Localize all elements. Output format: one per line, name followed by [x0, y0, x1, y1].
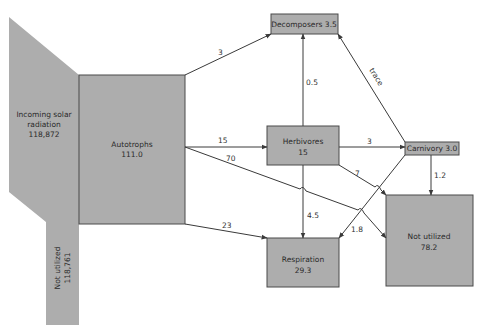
not-utilized-value: 78.2	[421, 243, 438, 252]
solar-not-utilized-label: Not utilized	[53, 246, 62, 289]
solar-label-line2: radiation	[27, 120, 61, 129]
flow-label-autotrophs-not-utilized: 70	[226, 154, 236, 163]
energy-flow-diagram: Incoming solar radiation 118,872 Not uti…	[0, 0, 482, 331]
not-utilized-label: Not utilized	[408, 232, 451, 241]
flow-label-autotrophs-herbivores: 15	[218, 136, 228, 145]
solar-label-line1: Incoming solar	[16, 110, 72, 119]
decomposers-label: Decomposers 3.5	[271, 20, 337, 29]
solar-not-utilized-value: 118,761	[63, 252, 72, 283]
carnivory-label: Carnivory 3.0	[407, 144, 458, 153]
herbivores-label: Herbivores	[283, 137, 324, 146]
flow-label-herbivores-not-utilized: 7	[355, 169, 360, 178]
autotrophs-label: Autotrophs	[111, 140, 152, 149]
autotrophs-value: 111.0	[121, 150, 143, 159]
flow-label-carnivory-decomposers: trace	[367, 66, 385, 88]
flow-carnivory-decomposers	[338, 34, 405, 142]
flow-label-autotrophs-respiration: 23	[222, 221, 232, 230]
flow-label-herbivores-respiration: 4.5	[307, 211, 319, 220]
respiration-value: 29.3	[295, 266, 312, 275]
flow-label-carnivory-not-utilized: 1.2	[434, 171, 446, 180]
flow-label-carnivory-respiration: 1.8	[351, 225, 363, 234]
flow-label-autotrophs-decomposers: 3	[218, 48, 223, 57]
solar-value: 118,872	[28, 130, 59, 139]
herbivores-value: 15	[298, 148, 308, 157]
flow-autotrophs-decomposers	[185, 34, 271, 75]
flow-label-herbivores-decomposers: 0.5	[306, 78, 318, 87]
respiration-label: Respiration	[282, 255, 325, 264]
flow-label-herbivores-carnivory: 3	[367, 137, 372, 146]
flow-herbivores-not-utilized	[339, 165, 386, 195]
